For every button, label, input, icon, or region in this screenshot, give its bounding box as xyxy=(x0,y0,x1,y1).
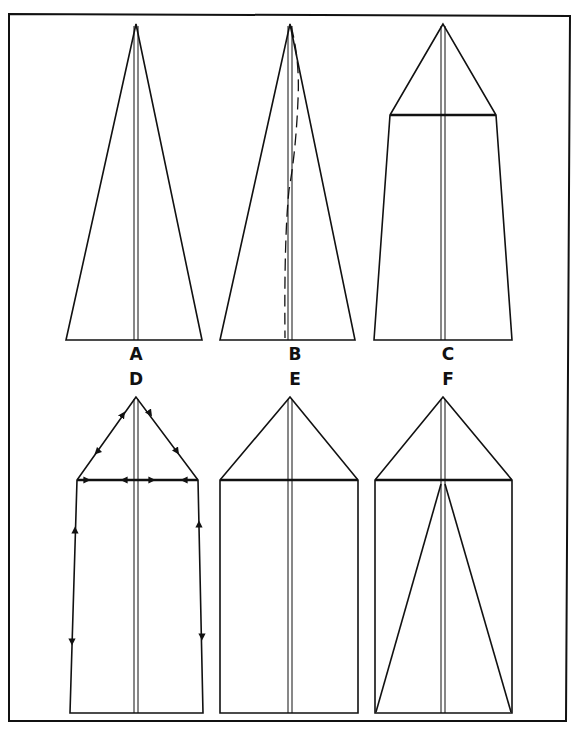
panel-c xyxy=(374,24,512,340)
figure-frame xyxy=(9,14,570,721)
panel-label-e: E xyxy=(289,371,301,388)
panel-e xyxy=(220,397,358,713)
panel-label-f: F xyxy=(442,371,454,388)
panel-label-b: B xyxy=(289,346,302,363)
panel-label-c: C xyxy=(442,346,454,363)
panel-b xyxy=(220,24,355,340)
folding-diagram xyxy=(0,0,577,729)
panel-d xyxy=(70,397,203,713)
direction-arrows xyxy=(72,412,202,642)
panel-label-a: A xyxy=(129,346,142,363)
panel-a xyxy=(66,24,202,340)
fold-line-right xyxy=(445,484,511,712)
panel-f xyxy=(375,397,512,713)
panel-label-d: D xyxy=(129,371,143,388)
fold-line-left xyxy=(376,484,441,712)
